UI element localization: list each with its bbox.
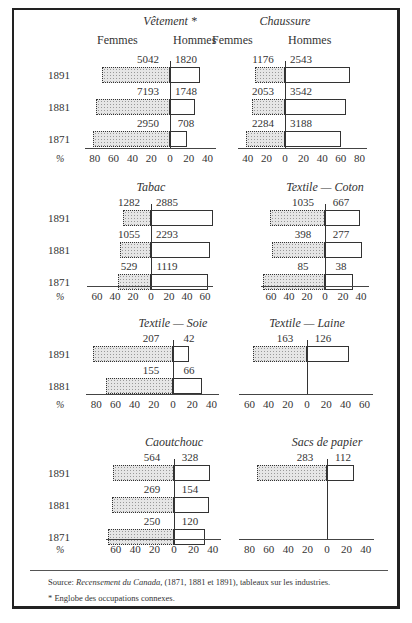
x-axis (261, 286, 369, 287)
x-axis (87, 286, 213, 287)
year-label: 1881 (48, 244, 70, 256)
tick-label: 80 (91, 398, 102, 410)
percent-axis-label: % (56, 399, 64, 410)
bar-femmes (93, 131, 170, 147)
bar-femmes (120, 242, 151, 258)
panel-title: Chaussure (225, 14, 345, 29)
bar-hommes (173, 346, 189, 362)
year-label: 1891 (48, 69, 70, 81)
count-hommes: 154 (182, 483, 199, 495)
bar-hommes (285, 99, 346, 115)
bar-hommes (151, 242, 210, 258)
percent-axis-label: % (56, 544, 64, 555)
count-hommes: 1748 (175, 85, 197, 97)
x-axis (86, 394, 219, 395)
tick-label: 60 (92, 290, 103, 302)
footnote: * Englobe des occupations connexes. (48, 593, 175, 603)
bar-femmes (106, 378, 173, 394)
source-note: Source: Recensement du Canada, (1871, 18… (48, 577, 330, 587)
tick-label: 0 (304, 398, 310, 410)
tick-label: 0 (148, 290, 154, 302)
source-label: Source: (48, 577, 76, 587)
panel-title: Caoutchouc (114, 435, 234, 450)
bar-hommes (327, 465, 354, 481)
count-hommes: 120 (182, 515, 199, 527)
bar-femmes (246, 131, 285, 147)
percent-axis-label: % (56, 291, 64, 302)
x-axis (238, 148, 368, 149)
tick-label: 60 (263, 543, 274, 555)
tick-label: 40 (207, 543, 218, 555)
count-femmes: 155 (143, 364, 160, 376)
bar-femmes (253, 346, 307, 362)
bar-hommes (151, 210, 213, 226)
tick-label: 20 (282, 398, 293, 410)
header-femmes: Femmes (212, 33, 253, 48)
tick-label: 20 (341, 543, 352, 555)
bar-femmes (270, 210, 325, 226)
count-hommes: 1119 (156, 260, 177, 272)
bar-femmes (102, 67, 170, 83)
year-label: 1881 (48, 499, 70, 511)
bar-femmes (257, 465, 327, 481)
header-hommes: Hommes (288, 33, 331, 48)
tick-label: 20 (302, 543, 313, 555)
tick-label: 60 (110, 398, 121, 410)
tick-label: 20 (149, 543, 160, 555)
tick-label: 0 (324, 543, 330, 555)
bar-femmes (123, 210, 151, 226)
tick-label: 20 (338, 290, 349, 302)
bar-hommes (170, 131, 187, 147)
tick-label: 40 (284, 290, 295, 302)
count-femmes: 5042 (137, 53, 159, 65)
tick-label: 0 (322, 290, 328, 302)
year-label: 1871 (48, 133, 70, 145)
bar-hommes (307, 346, 349, 362)
bar-hommes (325, 274, 353, 290)
bar-hommes (325, 242, 362, 258)
bar-hommes (151, 274, 208, 290)
year-label: 1881 (48, 101, 70, 113)
zero-line (151, 204, 152, 286)
tick-label: 40 (130, 543, 141, 555)
count-hommes: 667 (333, 196, 350, 208)
year-label: 1871 (48, 531, 70, 543)
tick-label: 80 (89, 152, 100, 164)
count-femmes: 283 (297, 451, 314, 463)
bar-femmes (272, 242, 325, 258)
tick-label: 20 (164, 290, 175, 302)
tick-label: 40 (242, 152, 253, 164)
tick-label: 40 (127, 152, 138, 164)
tick-label: 60 (266, 290, 277, 302)
count-hommes: 3188 (290, 117, 312, 129)
tick-label: 0 (171, 543, 177, 555)
count-hommes: 2885 (156, 196, 178, 208)
tick-label: 60 (335, 152, 346, 164)
tick-label: 20 (321, 398, 332, 410)
tick-label: 60 (200, 290, 211, 302)
count-femmes: 7193 (137, 85, 159, 97)
tick-label: 0 (282, 152, 288, 164)
count-femmes: 564 (144, 451, 161, 463)
tick-label: 40 (263, 398, 274, 410)
year-label: 1891 (48, 212, 70, 224)
bar-hommes (285, 131, 341, 147)
zero-line (325, 204, 326, 286)
tick-label: 20 (183, 152, 194, 164)
count-femmes: 2053 (252, 85, 274, 97)
panel-title: Vêtement * (110, 14, 230, 29)
count-femmes: 529 (121, 260, 138, 272)
count-hommes: 42 (184, 332, 195, 344)
tick-label: 60 (359, 398, 370, 410)
count-femmes: 2284 (252, 117, 274, 129)
count-femmes: 1055 (118, 228, 140, 240)
tick-label: 40 (317, 152, 328, 164)
panel-title: Sacs de papier (267, 435, 387, 450)
tick-label: 40 (283, 543, 294, 555)
count-femmes: 1035 (292, 196, 314, 208)
tick-label: 40 (129, 398, 140, 410)
bar-femmes (96, 99, 170, 115)
header-femmes: Femmes (97, 33, 138, 48)
x-axis (239, 394, 372, 395)
bar-femmes (113, 465, 174, 481)
